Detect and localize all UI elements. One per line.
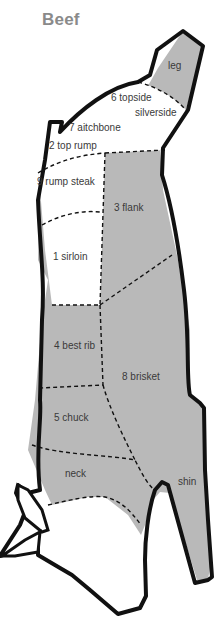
label-shin: shin	[178, 476, 196, 487]
label-neck: neck	[65, 468, 86, 479]
label-aitchbone: 7 aitchbone	[69, 122, 121, 133]
label-brisket: 8 brisket	[122, 371, 160, 382]
label-best-rib: 4 best rib	[54, 340, 95, 351]
label-flank: 3 flank	[114, 202, 143, 213]
label-silverside: silverside	[135, 107, 177, 118]
label-sirloin: 1 sirloin	[53, 251, 87, 262]
label-top-rump: 2 top rump	[49, 140, 97, 151]
label-topside: 6 topside	[111, 92, 152, 103]
label-leg: leg	[168, 60, 181, 71]
label-rump-steak: 9 rump steak	[37, 176, 95, 187]
label-chuck: 5 chuck	[54, 412, 88, 423]
